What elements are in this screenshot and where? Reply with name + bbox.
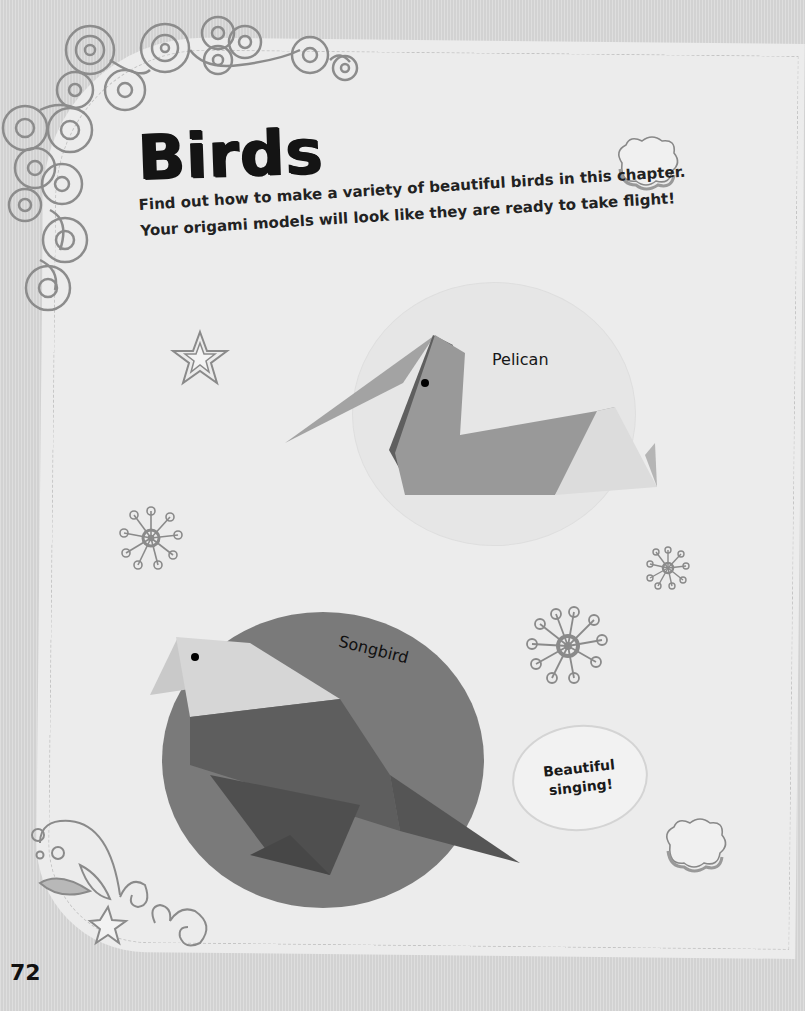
flower-icon bbox=[118, 505, 184, 571]
cloud-icon bbox=[660, 815, 732, 873]
shooting-star-swirl-icon bbox=[20, 815, 220, 955]
pelican-model bbox=[285, 335, 665, 555]
star-icon bbox=[170, 330, 230, 390]
flower-icon bbox=[528, 606, 608, 686]
pelican-label: Pelican bbox=[492, 350, 549, 369]
callout-text: Beautiful singing! bbox=[533, 754, 626, 801]
page-number: 72 bbox=[10, 960, 41, 985]
